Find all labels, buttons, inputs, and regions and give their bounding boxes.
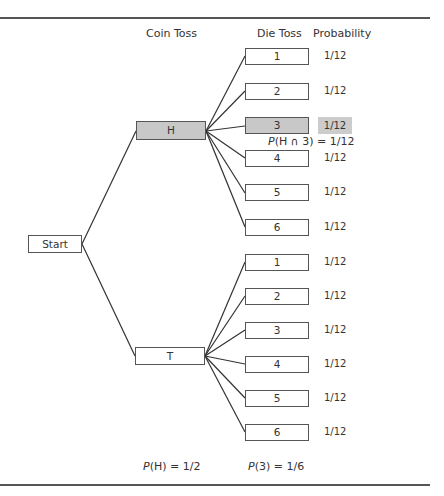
- coin-node-heads: H: [136, 121, 206, 140]
- die-node-h-2: 2: [245, 83, 309, 100]
- die-node-t-1: 1: [245, 254, 309, 271]
- die-node-t-2: 2: [245, 288, 309, 305]
- die-node-t-5: 5: [245, 390, 309, 407]
- start-node: Start: [28, 235, 82, 253]
- p-three-expr: (3) = 1/6: [255, 460, 305, 473]
- die-node-t-3: 3: [245, 322, 309, 339]
- die-node-h-1: 1: [245, 48, 309, 65]
- p-heads-expr: (H) = 1/2: [150, 460, 201, 473]
- coin-node-tails: T: [135, 347, 205, 365]
- die-node-t-6: 6: [245, 424, 309, 441]
- die-node-h-5: 5: [245, 184, 309, 201]
- p-three-annotation: P(3) = 1/6: [248, 460, 304, 473]
- p-symbol: P: [248, 460, 255, 473]
- p-heads-annotation: P(H) = 1/2: [143, 460, 200, 473]
- p-symbol: P: [143, 460, 150, 473]
- prob-h-5: 1/12: [324, 186, 346, 197]
- prob-h-1: 1/12: [324, 50, 346, 61]
- prob-h-3: 1/12: [318, 117, 352, 134]
- die-node-h-3: 3: [245, 117, 309, 134]
- prob-h-4: 1/12: [324, 152, 346, 163]
- prob-t-6: 1/12: [324, 426, 346, 437]
- prob-h-6: 1/12: [324, 221, 346, 232]
- prob-t-5: 1/12: [324, 392, 346, 403]
- intersection-expr: (H ∩ 3) = 1/12: [275, 135, 355, 148]
- prob-t-3: 1/12: [324, 324, 346, 335]
- prob-t-1: 1/12: [324, 256, 346, 267]
- prob-t-4: 1/12: [324, 358, 346, 369]
- prob-h-2: 1/12: [324, 85, 346, 96]
- prob-t-2: 1/12: [324, 290, 346, 301]
- intersection-annotation: P(H ∩ 3) = 1/12: [268, 135, 354, 148]
- die-node-t-4: 4: [245, 356, 309, 373]
- die-node-h-6: 6: [245, 219, 309, 236]
- p-symbol: P: [268, 135, 275, 148]
- die-node-h-4: 4: [245, 150, 309, 167]
